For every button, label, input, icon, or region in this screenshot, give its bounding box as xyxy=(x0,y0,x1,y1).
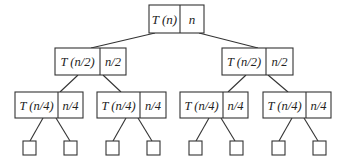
node-level3-2-cost: T (n/4) xyxy=(101,99,135,113)
node-level3-1: T (n/4) n/4 xyxy=(15,92,83,118)
node-level3-2-size: n/4 xyxy=(145,99,161,113)
edge-l2b-left xyxy=(228,75,246,92)
edge-l3a-right xyxy=(56,118,70,141)
edge-l3d-left xyxy=(279,118,292,141)
node-level3-4-size: n/4 xyxy=(311,99,327,113)
edge-l3c-left xyxy=(196,118,209,141)
node-level3-4-cost: T (n/4) xyxy=(267,99,301,113)
edge-l2b-right xyxy=(268,75,288,92)
node-level2-right-cost: T (n/2) xyxy=(227,55,261,69)
node-root-size: n xyxy=(189,12,196,27)
node-level2-left: T (n/2) n/2 xyxy=(55,48,126,75)
node-level3-4: T (n/4) n/4 xyxy=(263,92,331,118)
node-level3-3-cost: T (n/4) xyxy=(184,99,218,113)
edge-l3a-left xyxy=(30,118,43,141)
node-level2-right-size: n/2 xyxy=(272,55,288,69)
node-level3-1-size: n/4 xyxy=(63,99,79,113)
leaf-node-4 xyxy=(147,141,160,155)
node-root-cost: T (n) xyxy=(152,12,177,27)
leaf-node-2 xyxy=(64,141,77,155)
node-level3-1-cost: T (n/4) xyxy=(19,99,53,113)
edge-l3c-right xyxy=(221,118,235,141)
node-level3-2: T (n/4) n/4 xyxy=(97,92,166,118)
node-level3-3: T (n/4) n/4 xyxy=(180,92,248,118)
leaf-node-6 xyxy=(230,141,243,155)
leaf-node-7 xyxy=(272,141,285,155)
node-level2-left-cost: T (n/2) xyxy=(60,55,94,69)
node-level3-3-size: n/4 xyxy=(228,99,244,113)
edge-root-right xyxy=(199,33,258,48)
edge-l3b-right xyxy=(138,118,152,141)
edge-root-left xyxy=(91,33,155,48)
edge-l3b-left xyxy=(113,118,126,141)
leaf-node-1 xyxy=(23,141,36,155)
leaf-node-5 xyxy=(189,141,202,155)
node-level2-left-size: n/2 xyxy=(105,55,121,69)
edge-l2a-left xyxy=(60,75,78,92)
edge-l2a-right xyxy=(103,75,121,92)
leaf-node-3 xyxy=(106,141,119,155)
edge-l3d-right xyxy=(304,118,318,141)
node-level2-right: T (n/2) n/2 xyxy=(222,48,293,75)
recursion-tree-diagram: T (n) n T (n/2) n/2 T (n/2) n/2 T (n/4) … xyxy=(0,0,344,167)
node-root: T (n) n xyxy=(149,5,204,33)
leaf-node-8 xyxy=(313,141,326,155)
